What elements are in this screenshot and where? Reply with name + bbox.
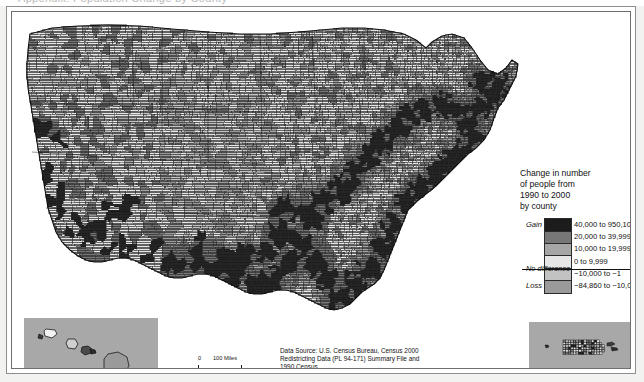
county (404, 58, 407, 63)
pr-municipality (599, 352, 602, 354)
county (449, 162, 452, 165)
county (295, 218, 300, 223)
county (394, 194, 399, 197)
source-note: Data Source: U.S. Census Bureau, Census … (280, 339, 465, 368)
county (321, 105, 326, 110)
legend-class-label-0: 40,000 to 950,100 (574, 220, 630, 229)
map-legend: Change in number of people from 1990 to … (520, 168, 630, 300)
county (449, 126, 452, 131)
pr-municipality (602, 347, 605, 349)
scalebar-label: 100 Miles (213, 355, 237, 361)
pr-municipality (589, 340, 591, 342)
county (449, 50, 452, 53)
pr-municipality (592, 350, 595, 352)
legend-swatch-0 (545, 219, 571, 231)
county (426, 49, 431, 54)
county (425, 100, 428, 103)
county (500, 79, 503, 82)
county-polygons (26, 25, 517, 310)
county (180, 167, 185, 175)
county (454, 110, 456, 115)
pr-municipality (602, 350, 605, 352)
pr-municipality (597, 347, 599, 349)
county (444, 63, 447, 66)
county (151, 185, 164, 190)
pr-municipality (563, 352, 566, 355)
pr-municipality (581, 340, 584, 342)
county (457, 54, 460, 59)
pr-municipality (597, 342, 599, 344)
county (287, 226, 295, 229)
county (487, 110, 490, 115)
county (111, 194, 124, 204)
pr-municipality (573, 340, 575, 342)
county (361, 242, 363, 245)
county (354, 164, 357, 170)
county (265, 247, 267, 249)
county (84, 238, 87, 243)
pr-municipality (599, 347, 602, 350)
county (508, 82, 511, 85)
county (343, 175, 345, 177)
county (460, 58, 465, 63)
county (361, 204, 367, 207)
legend-swatch-column (544, 218, 572, 294)
pr-municipality (592, 352, 595, 354)
legend-swatch-5 (545, 281, 571, 293)
pr-municipality (599, 342, 601, 344)
county (476, 78, 479, 83)
county (268, 118, 273, 121)
county (484, 89, 489, 92)
pr-municipality (573, 352, 576, 355)
pr-municipality (579, 352, 581, 354)
pr-municipality (576, 350, 579, 352)
county (354, 143, 357, 148)
legend-class-label-3: 0 to 9,999 (574, 257, 608, 266)
county (378, 47, 384, 49)
county (366, 73, 369, 76)
legend-swatch-1 (545, 232, 571, 244)
county (369, 257, 374, 260)
county (314, 31, 316, 33)
county (391, 111, 396, 117)
pr-municipality (571, 352, 574, 354)
county (465, 137, 468, 142)
county (492, 103, 497, 106)
county (447, 63, 452, 66)
scalebar-zero: 0 (198, 355, 201, 361)
legend-body: No difference Gain Loss 40,000 to 950,10… (520, 218, 630, 300)
county (420, 159, 423, 162)
legend-class-label-4: −10,000 to −1 (574, 269, 621, 278)
county (466, 74, 472, 77)
county (388, 71, 393, 73)
county (422, 175, 425, 178)
county (439, 58, 444, 61)
legend-class-label-5: −84,860 to −10,001 (574, 281, 630, 290)
county (508, 73, 511, 78)
county (81, 143, 89, 156)
pr-municipality (594, 352, 596, 354)
county (407, 118, 412, 121)
legend-swatch-2 (545, 244, 571, 256)
county (433, 169, 436, 172)
county (388, 190, 393, 195)
pr-municipality (584, 352, 586, 355)
county (468, 143, 473, 146)
county (452, 135, 455, 138)
pr-municipality (594, 342, 597, 344)
county (431, 166, 434, 169)
legend-class-label-1: 20,000 to 39,999 (574, 232, 630, 241)
county (415, 191, 418, 194)
pr-municipality (586, 352, 588, 355)
pr-municipality (586, 340, 589, 342)
county (207, 33, 217, 35)
pr-municipality (597, 345, 600, 347)
county (473, 118, 476, 123)
legend-loss-label: Loss (526, 281, 542, 290)
county (396, 209, 401, 212)
county (359, 286, 362, 291)
pr-municipality (579, 340, 582, 342)
county (452, 130, 457, 135)
county (412, 52, 415, 57)
county (383, 222, 385, 224)
